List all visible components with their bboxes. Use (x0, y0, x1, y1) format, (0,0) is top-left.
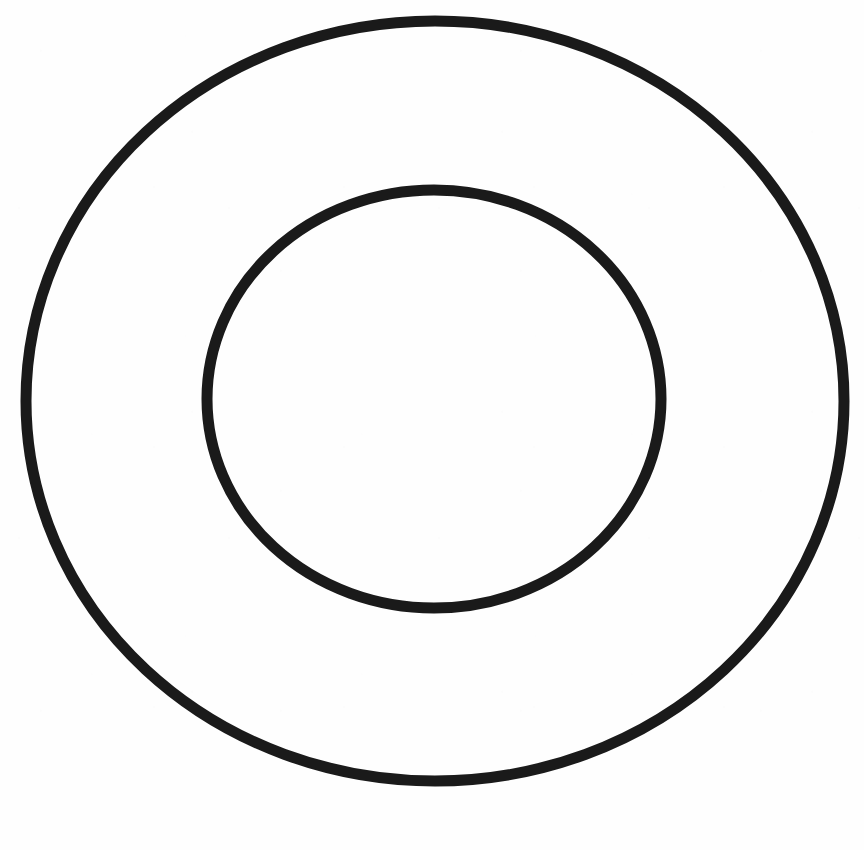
concentric-circles-figure (0, 0, 864, 850)
figure-background (0, 0, 864, 850)
figure-root (0, 0, 864, 850)
